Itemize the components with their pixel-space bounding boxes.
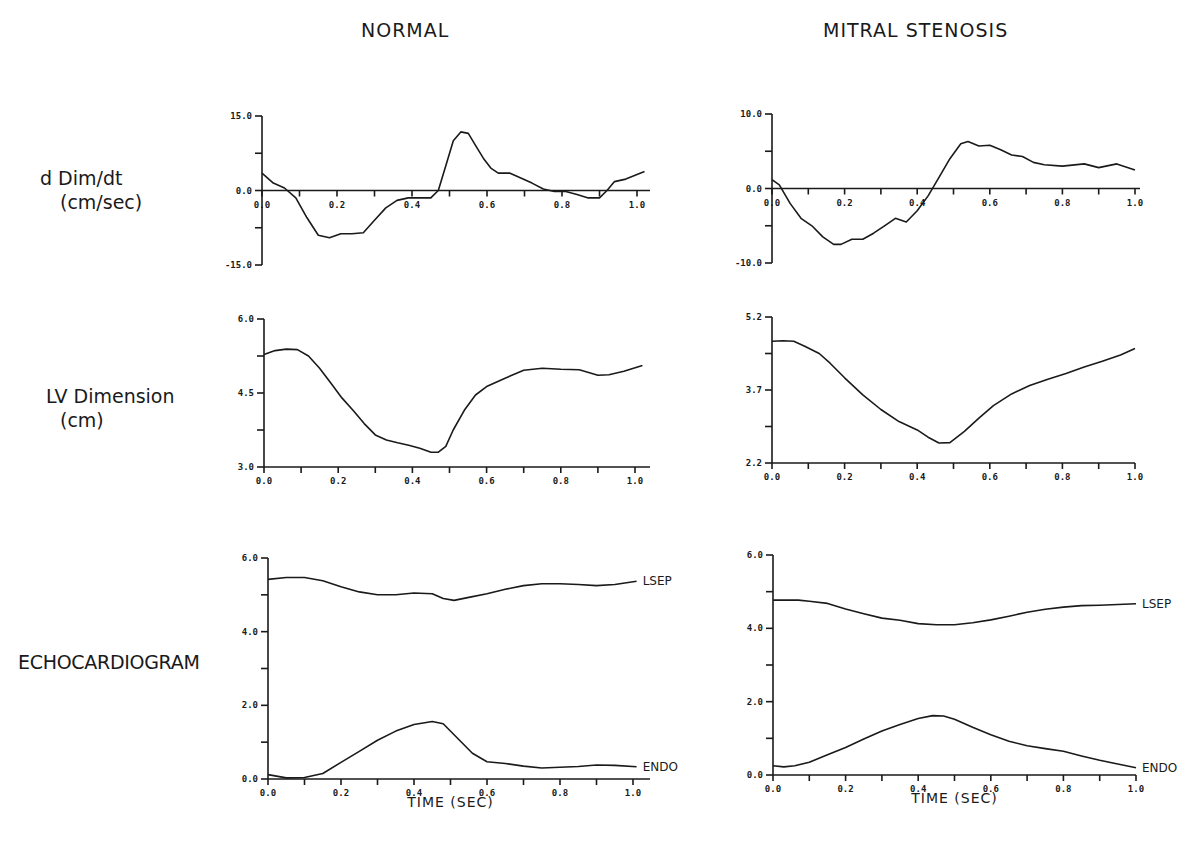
x-tick-label: 0.0: [764, 198, 780, 208]
chart-normal-lv: 6.04.53.00.00.20.40.60.81.0: [238, 314, 650, 486]
series-line-ddim-dt: [262, 132, 645, 238]
y-tick-label: -15.0: [225, 260, 252, 270]
x-tick-label: 0.6: [478, 476, 494, 486]
x-axis-title: TIME (SEC): [910, 790, 998, 806]
x-tick-label: 0.4: [909, 472, 926, 482]
x-tick-label: 0.8: [552, 788, 568, 798]
x-tick-label: 0.2: [333, 788, 349, 798]
chart-normal-echo: 6.04.02.00.00.00.20.40.60.81.0TIME (SEC)…: [242, 553, 678, 810]
x-tick-label: 0.2: [330, 476, 346, 486]
x-tick-label: 1.0: [1127, 198, 1143, 208]
plots-canvas: 15.00.0-15.00.00.20.40.60.81.010.00.0-10…: [0, 0, 1202, 844]
x-tick-label: 1.0: [625, 788, 641, 798]
y-tick-label: 10.0: [740, 109, 762, 119]
y-tick-label: 3.7: [746, 385, 762, 395]
y-tick-label: 6.0: [242, 553, 258, 563]
y-tick-label: 6.0: [747, 550, 763, 560]
x-tick-label: 0.8: [1054, 472, 1070, 482]
x-tick-label: 0.2: [329, 200, 345, 210]
x-tick-label: 0.0: [765, 784, 781, 794]
x-tick-label: 1.0: [627, 476, 643, 486]
chart-ms-echo: 6.04.02.00.00.00.20.40.60.81.0TIME (SEC)…: [747, 550, 1178, 806]
chart-ms-lv: 5.23.72.20.00.20.40.60.81.0: [746, 312, 1143, 482]
x-tick-label: 0.8: [553, 476, 569, 486]
y-tick-label: 4.5: [238, 388, 254, 398]
series-label-lsep: LSEP: [643, 574, 672, 588]
x-tick-label: 0.4: [404, 476, 421, 486]
y-tick-label: 6.0: [238, 314, 254, 324]
x-tick-label: 0.6: [479, 200, 495, 210]
x-axis-title: TIME (SEC): [406, 794, 494, 810]
series-line-endo: [773, 716, 1136, 768]
x-tick-label: 1.0: [629, 200, 645, 210]
series-label-endo: ENDO: [1142, 761, 1177, 775]
x-tick-label: 0.0: [764, 472, 780, 482]
series-label-lsep: LSEP: [1142, 597, 1171, 611]
x-tick-label: 0.6: [982, 198, 998, 208]
x-tick-label: 1.0: [1127, 472, 1143, 482]
series-line-lsep: [773, 600, 1136, 625]
y-tick-label: 2.0: [242, 700, 258, 710]
y-tick-label: 3.0: [238, 462, 254, 472]
series-line-endo: [268, 722, 637, 778]
y-tick-label: 0.0: [242, 774, 258, 784]
x-tick-label: 0.2: [836, 472, 852, 482]
y-tick-label: 0.0: [236, 186, 252, 196]
series-line-lv-dimension: [772, 341, 1135, 443]
y-tick-label: 5.2: [746, 312, 762, 322]
chart-normal-ddim: 15.00.0-15.00.00.20.40.60.81.0: [225, 111, 650, 270]
x-tick-label: 0.2: [836, 198, 852, 208]
y-tick-label: 2.2: [746, 458, 762, 468]
y-tick-label: 2.0: [747, 697, 763, 707]
y-tick-label: 15.0: [230, 111, 252, 121]
y-tick-label: 0.0: [746, 184, 762, 194]
y-tick-label: 4.0: [242, 627, 258, 637]
x-tick-label: 1.0: [1128, 784, 1144, 794]
y-tick-label: 4.0: [747, 623, 763, 633]
x-tick-label: 0.0: [256, 476, 272, 486]
x-tick-label: 0.8: [1055, 784, 1071, 794]
chart-ms-ddim: 10.00.0-10.00.00.20.40.60.81.0: [735, 109, 1143, 268]
x-tick-label: 0.0: [260, 788, 276, 798]
y-tick-label: 0.0: [747, 770, 763, 780]
x-tick-label: 0.8: [1054, 198, 1070, 208]
x-tick-label: 0.4: [404, 200, 421, 210]
series-line-lsep: [268, 578, 637, 601]
x-tick-label: 0.0: [254, 200, 270, 210]
x-tick-label: 0.2: [837, 784, 853, 794]
series-label-endo: ENDO: [643, 760, 678, 774]
y-tick-label: -10.0: [735, 258, 762, 268]
x-tick-label: 0.8: [554, 200, 570, 210]
series-line-lv-dimension: [264, 349, 642, 452]
x-tick-label: 0.6: [982, 472, 998, 482]
